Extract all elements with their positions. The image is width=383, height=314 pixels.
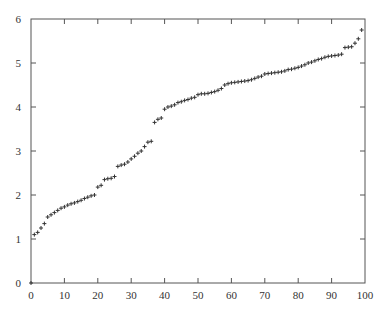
data-point bbox=[29, 281, 33, 285]
data-point bbox=[166, 105, 170, 109]
data-point bbox=[146, 140, 150, 144]
data-point bbox=[123, 162, 127, 166]
data-point bbox=[360, 28, 364, 32]
y-tick-label: 5 bbox=[16, 57, 22, 69]
x-tick-label: 20 bbox=[92, 289, 104, 301]
data-point bbox=[356, 37, 360, 41]
y-tick-label: 2 bbox=[16, 189, 22, 201]
data-point bbox=[350, 45, 354, 49]
x-tick-label: 30 bbox=[126, 289, 138, 301]
data-point bbox=[206, 91, 210, 95]
data-point bbox=[149, 139, 153, 143]
data-point bbox=[39, 226, 43, 230]
data-point bbox=[139, 149, 143, 153]
plot-frame bbox=[31, 19, 365, 283]
data-point bbox=[176, 101, 180, 105]
data-point bbox=[353, 41, 357, 45]
data-point bbox=[336, 53, 340, 57]
data-point bbox=[193, 95, 197, 99]
data-point bbox=[102, 178, 106, 182]
data-point bbox=[196, 93, 200, 97]
data-point bbox=[129, 157, 133, 161]
x-tick-label: 40 bbox=[159, 289, 171, 301]
x-tick-label: 90 bbox=[326, 289, 338, 301]
data-point bbox=[290, 67, 294, 71]
data-point bbox=[280, 70, 284, 74]
x-tick-label: 100 bbox=[357, 289, 374, 301]
data-point bbox=[133, 154, 137, 158]
y-tick-label: 6 bbox=[16, 13, 22, 25]
x-tick-label: 0 bbox=[28, 289, 34, 301]
data-point bbox=[36, 230, 40, 234]
x-tick-label: 10 bbox=[59, 289, 71, 301]
x-tick-label: 80 bbox=[293, 289, 305, 301]
data-point bbox=[163, 107, 167, 111]
x-axis: 0102030405060708090100 bbox=[28, 19, 374, 301]
data-point bbox=[92, 193, 96, 197]
y-tick-label: 1 bbox=[16, 233, 22, 245]
data-point bbox=[56, 208, 60, 212]
y-axis: 0123456 bbox=[16, 13, 366, 289]
x-tick-label: 70 bbox=[259, 289, 271, 301]
y-tick-label: 0 bbox=[16, 277, 22, 289]
plot-area-border bbox=[31, 19, 365, 283]
scatter-chart: 0102030405060708090100 0123456 bbox=[0, 0, 383, 314]
data-point bbox=[42, 222, 46, 226]
data-point bbox=[246, 79, 250, 83]
data-point bbox=[293, 66, 297, 70]
data-point bbox=[46, 215, 50, 219]
data-point bbox=[259, 74, 263, 78]
data-point bbox=[209, 90, 213, 94]
data-point bbox=[340, 52, 344, 56]
data-point bbox=[52, 211, 56, 215]
data-point bbox=[136, 151, 140, 155]
data-point bbox=[126, 160, 130, 164]
data-point bbox=[49, 213, 53, 217]
data-points bbox=[29, 28, 364, 285]
x-tick-label: 60 bbox=[226, 289, 238, 301]
x-tick-label: 50 bbox=[193, 289, 205, 301]
data-point bbox=[153, 120, 157, 124]
y-tick-label: 4 bbox=[16, 101, 22, 113]
data-point bbox=[32, 233, 36, 237]
data-point bbox=[143, 145, 147, 149]
y-tick-label: 3 bbox=[16, 145, 22, 157]
